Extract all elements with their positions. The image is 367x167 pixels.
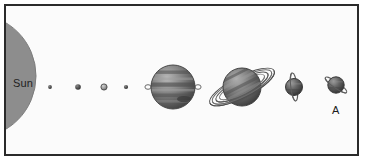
sun-disc: [6, 14, 36, 138]
planet-jupiter: [145, 65, 201, 109]
planet-uranus: [285, 73, 304, 102]
planet-earth: [101, 84, 107, 90]
planet-saturn: [205, 61, 279, 112]
solar-system-figure: Sun A: [0, 0, 367, 167]
body-a-label: A: [332, 104, 339, 116]
solar-system-illustration: [6, 6, 357, 154]
sun-label: Sun: [13, 77, 33, 90]
planet-mercury: [48, 85, 52, 89]
planet-venus: [75, 84, 81, 90]
figure-border-frame: Sun A: [4, 4, 359, 156]
planet-neptune: [324, 75, 349, 95]
planet-mars: [124, 85, 128, 89]
great-red-spot: [177, 96, 191, 102]
diagram-canvas: Sun A: [6, 6, 357, 154]
